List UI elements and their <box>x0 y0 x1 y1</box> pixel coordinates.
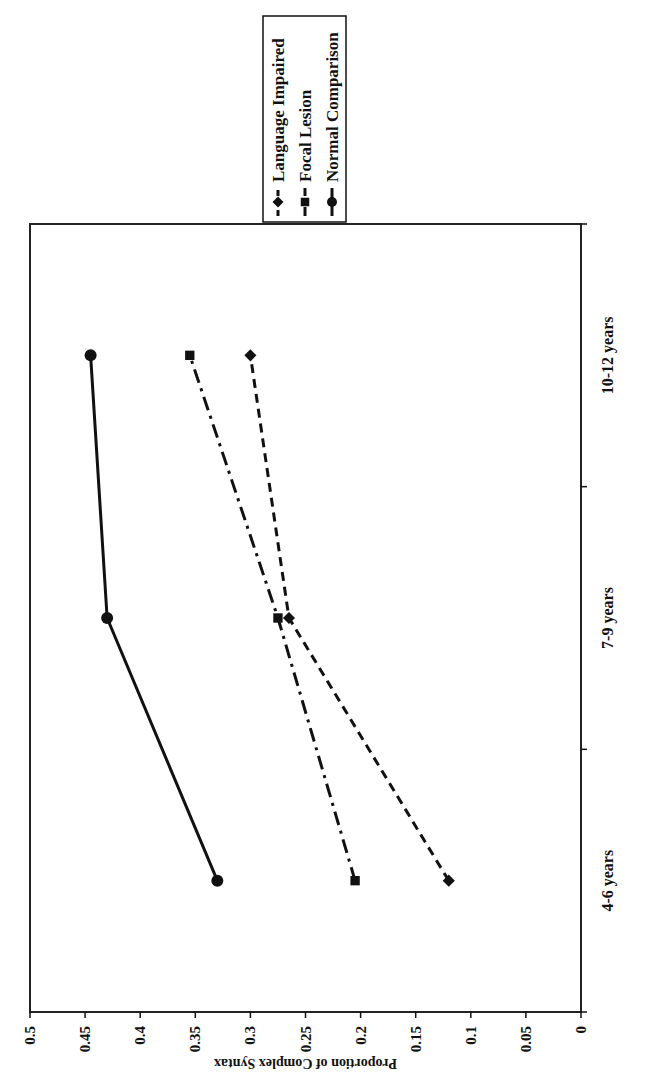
circle-marker-icon <box>211 875 223 887</box>
circle-marker-icon <box>327 197 337 207</box>
square-marker-icon <box>273 613 282 622</box>
y-tick-label: 0.4 <box>132 1026 148 1045</box>
y-tick-label: 0 <box>573 1026 589 1034</box>
x-category-label: 7-9 years <box>599 587 617 649</box>
series-lines <box>85 349 455 886</box>
circle-marker-icon <box>85 349 97 361</box>
y-tick-label: 0.5 <box>22 1026 38 1045</box>
circle-marker-icon <box>101 612 113 624</box>
square-marker-icon <box>185 351 194 360</box>
square-marker-icon <box>301 198 310 207</box>
line-chart: 00.050.10.150.20.250.30.350.40.450.5 4-6… <box>0 0 645 1077</box>
y-axis: 00.050.10.150.20.250.30.350.40.450.5 <box>22 1012 589 1052</box>
y-tick-label: 0.35 <box>187 1026 203 1052</box>
square-marker-icon <box>350 876 359 885</box>
series-normal-comparison <box>85 349 224 886</box>
y-tick-label: 0.25 <box>298 1026 314 1052</box>
y-tick-label: 0.2 <box>353 1026 369 1045</box>
legend-label: Language Impaired <box>269 38 288 182</box>
y-tick-label: 0.45 <box>77 1026 93 1052</box>
series-line <box>190 355 355 880</box>
x-category-label: 4-6 years <box>599 850 617 912</box>
y-tick-label: 0.05 <box>518 1026 534 1052</box>
diamond-marker-icon <box>244 349 256 361</box>
legend-label: Normal Comparison <box>323 32 342 182</box>
y-tick-label: 0.3 <box>242 1026 258 1045</box>
y-axis-title: Proportion of Complex Syntax <box>214 1056 397 1071</box>
x-category-label: 10-12 years <box>599 316 617 394</box>
series-focal-lesion <box>185 351 360 886</box>
rotated-chart-stage: 00.050.10.150.20.250.30.350.40.450.5 4-6… <box>0 0 645 1077</box>
legend-label: Focal Lesion <box>296 89 315 182</box>
legend: Language ImpairedFocal LesionNormal Comp… <box>263 16 346 222</box>
y-tick-label: 0.1 <box>463 1026 479 1045</box>
x-axis: 4-6 years7-9 years10-12 years <box>581 224 617 1012</box>
y-tick-label: 0.15 <box>408 1026 424 1052</box>
